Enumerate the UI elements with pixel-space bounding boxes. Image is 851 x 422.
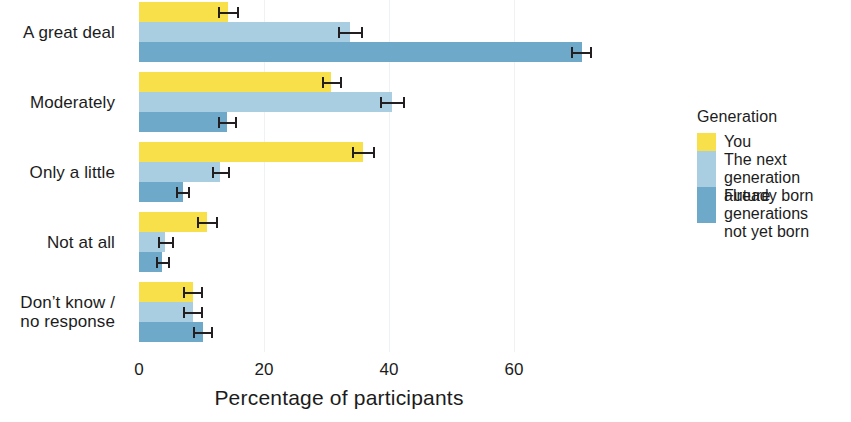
error-bar xyxy=(352,147,375,158)
bar-group xyxy=(139,282,651,342)
bar-group xyxy=(139,142,651,202)
legend-item-label: Future generations not yet born xyxy=(724,187,847,241)
legend: Generation YouThe next generation alread… xyxy=(697,108,847,223)
bar xyxy=(139,22,350,42)
legend-item[interactable]: Future generations not yet born xyxy=(697,187,847,223)
error-bar-cap xyxy=(590,47,592,58)
error-bar xyxy=(183,287,203,298)
error-bar xyxy=(158,237,174,248)
error-bar xyxy=(156,257,170,268)
legend-color-swatch xyxy=(697,151,716,187)
category-label: Only a little xyxy=(30,163,115,182)
error-bar xyxy=(218,7,239,18)
legend-item[interactable]: The next generation already born xyxy=(697,151,847,187)
legend-color-swatch xyxy=(697,187,716,223)
bar xyxy=(139,142,363,162)
category-label: A great deal xyxy=(23,23,115,42)
bar xyxy=(139,2,228,22)
error-bar-cap xyxy=(201,287,203,298)
error-bar-cap xyxy=(172,237,174,248)
x-axis-tick-label: 40 xyxy=(380,360,399,380)
error-bar-cap xyxy=(201,307,203,318)
error-bar-cap xyxy=(188,187,190,198)
error-bar-line xyxy=(338,32,362,34)
error-bar xyxy=(197,217,218,228)
error-bar-cap xyxy=(228,167,230,178)
plot-area xyxy=(139,0,651,352)
bar xyxy=(139,162,220,182)
error-bar xyxy=(380,97,404,108)
bar-group xyxy=(139,72,651,132)
error-bar-cap xyxy=(403,97,405,108)
category-label: Don’t know / no response xyxy=(20,293,115,331)
error-bar-cap xyxy=(237,7,239,18)
error-bar-line xyxy=(183,292,203,294)
error-bar-cap xyxy=(211,327,213,338)
error-bar-cap xyxy=(361,27,363,38)
legend-color-swatch xyxy=(697,133,716,151)
error-bar-cap xyxy=(340,77,342,88)
error-bar xyxy=(212,167,230,178)
error-bar-line xyxy=(322,82,342,84)
x-axis: 0204060 xyxy=(139,352,651,382)
legend-item[interactable]: You xyxy=(697,133,847,151)
x-axis-tick-label: 20 xyxy=(255,360,274,380)
x-axis-tick-label: 60 xyxy=(505,360,524,380)
error-bar-cap xyxy=(216,217,218,228)
error-bar-line xyxy=(218,12,239,14)
error-bar-line xyxy=(380,102,404,104)
error-bar xyxy=(322,77,342,88)
category-label: Not at all xyxy=(47,233,115,252)
bar-group xyxy=(139,2,651,62)
bar xyxy=(139,72,331,92)
legend-items: YouThe next generation already bornFutur… xyxy=(697,133,847,223)
legend-title: Generation xyxy=(697,108,847,126)
error-bar xyxy=(193,327,213,338)
error-bar xyxy=(218,117,236,128)
bar-group xyxy=(139,212,651,272)
bar xyxy=(139,42,582,62)
x-axis-tick-label: 0 xyxy=(134,360,143,380)
error-bar-line xyxy=(571,52,592,54)
bar xyxy=(139,112,227,132)
error-bar xyxy=(338,27,362,38)
x-axis-label: Percentage of participants xyxy=(139,386,539,410)
bar xyxy=(139,92,392,112)
error-bar xyxy=(571,47,592,58)
bar-chart: A great dealModeratelyOnly a littleNot a… xyxy=(0,0,851,422)
error-bar-cap xyxy=(168,257,170,268)
error-bar xyxy=(176,187,190,198)
error-bar-line xyxy=(352,152,375,154)
error-bar-line xyxy=(193,332,213,334)
error-bar xyxy=(183,307,202,318)
error-bar-cap xyxy=(373,147,375,158)
error-bar-cap xyxy=(235,117,237,128)
category-label: Moderately xyxy=(30,93,115,112)
error-bar-line xyxy=(197,222,218,224)
legend-item-label: You xyxy=(724,133,847,151)
